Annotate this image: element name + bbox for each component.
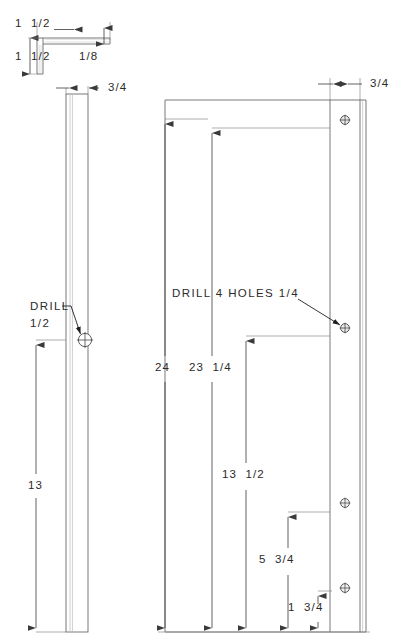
- front-view-drill-note: DRILL 4 HOLES 1/4: [172, 288, 299, 300]
- side-view-drill-note-line1: DRILL: [30, 301, 70, 313]
- front-view-flange-dimension-text: 3/4: [370, 78, 389, 90]
- side-view-width-dimension: [56, 86, 99, 94]
- side-view-geometry: [66, 94, 88, 632]
- cs-thickness-dimension-text: 1/8: [79, 51, 98, 63]
- side-view-width-dimension-text: 3/4: [108, 82, 127, 94]
- front-view-dim-13-1-2-text: 13 1/2: [222, 469, 265, 481]
- drawing-sheet: 1 1/2 1 1/2 1/8 3/4 DRILL 1/2 13 3/4 DRI…: [0, 0, 396, 643]
- side-view-drill-hole: [77, 332, 93, 348]
- cs-width-dimension-text: 1 1/2: [15, 18, 50, 30]
- front-view-drill-leader: [298, 299, 340, 325]
- front-view-flange-dimension: [318, 78, 362, 100]
- front-view-dim-24-text: 24: [155, 362, 170, 374]
- front-view-dim-5-3-4-text: 5 3/4: [259, 554, 294, 566]
- front-view-hole-2: [340, 323, 351, 334]
- side-view-edge-lines: [70, 95, 72, 631]
- front-view-hole-1: [340, 115, 351, 126]
- side-view-13-dimension-text: 13: [28, 480, 43, 492]
- front-view-dim-1-3-4-text: 1 3/4: [288, 602, 323, 614]
- drawing-canvas: [0, 0, 396, 643]
- front-view-dim-24: [165, 119, 208, 628]
- front-view-dim-23-1-4-text: 23 1/4: [189, 362, 232, 374]
- cs-height-dimension-text: 1 1/2: [15, 51, 50, 63]
- front-view-hole-3: [340, 498, 351, 509]
- side-view-drill-note-line2: 1/2: [30, 318, 50, 330]
- front-view-hole-4: [340, 583, 351, 594]
